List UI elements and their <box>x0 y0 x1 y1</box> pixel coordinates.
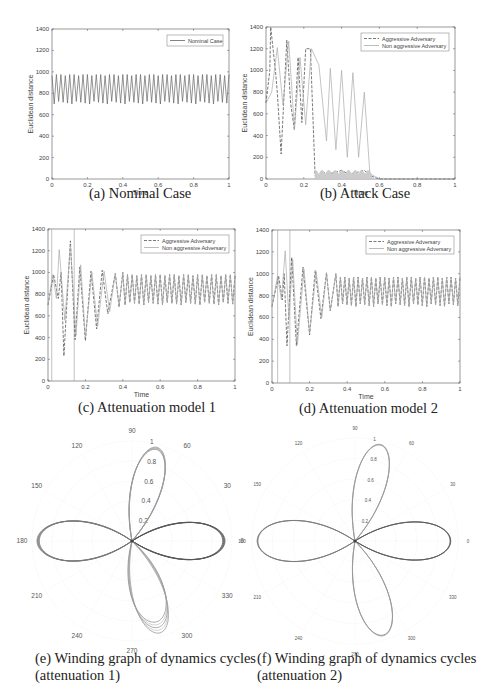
x-tick-label: 0.2 <box>305 386 314 392</box>
legend-entry: Non aggressive Adversary <box>162 245 226 251</box>
series-non-aggressive-adversary <box>266 41 455 179</box>
y-tick-label: 800 <box>253 89 264 95</box>
y-tick-label: 800 <box>35 291 46 297</box>
angle-tick-label: 210 <box>253 595 261 600</box>
y-tick-label: 800 <box>39 90 50 96</box>
legend-entry: Nominal Case <box>188 38 223 44</box>
y-tick-label: 1000 <box>36 69 50 75</box>
y-axis-label: Euclidean distance <box>23 276 30 335</box>
angle-tick-label: 240 <box>295 636 303 641</box>
y-tick-label: 1400 <box>250 24 264 30</box>
angle-tick-label: 30 <box>450 482 456 487</box>
x-tick-label: 0.6 <box>381 386 390 392</box>
x-tick-label: 0.4 <box>119 384 128 390</box>
x-tick-label: 0 <box>270 386 274 392</box>
series-aggressive-adversary <box>272 257 460 346</box>
y-tick-label: 0 <box>42 378 46 384</box>
legend: Aggressive AdversaryNon aggressive Adver… <box>141 235 229 253</box>
angle-tick-label: 300 <box>408 636 416 641</box>
legend: Nominal Case <box>167 35 223 46</box>
angle-tick-label: 180 <box>17 537 28 544</box>
angle-tick-label: 330 <box>222 592 233 599</box>
y-tick-label: 1000 <box>32 269 46 275</box>
y-tick-label: 1400 <box>32 226 46 232</box>
chart-a: 020040060080010001200140000.20.40.60.81T… <box>27 26 231 196</box>
x-tick-label: 1 <box>453 182 457 188</box>
legend-entry: Aggressive Adversary <box>382 36 435 42</box>
y-tick-label: 800 <box>259 293 270 299</box>
radial-tick-label: 1 <box>150 438 154 445</box>
y-tick-label: 400 <box>253 133 264 139</box>
y-tick-label: 1000 <box>256 271 270 277</box>
caption-d: (d) Attenuation model 2 <box>299 400 438 417</box>
y-tick-label: 400 <box>35 335 46 341</box>
angle-tick-label: 60 <box>409 441 415 446</box>
radial-tick-label: 0.4 <box>365 498 372 503</box>
x-tick-label: 1 <box>458 386 462 392</box>
y-axis-label: Euclidean distance <box>247 277 254 336</box>
x-tick-label: 0.2 <box>81 384 90 390</box>
x-axis-label: Time <box>358 393 373 400</box>
winding-trace <box>129 541 168 630</box>
angle-tick-label: 0 <box>467 539 470 544</box>
chart-b: 020040060080010001200140000.20.40.60.81T… <box>241 24 457 196</box>
angle-tick-label: 120 <box>295 441 303 446</box>
polar-origin <box>130 539 133 542</box>
radial-tick-label: 0.4 <box>142 497 151 504</box>
caption-f-line1: (f) Winding graph of dynamics cycles <box>257 650 476 667</box>
winding-trace <box>132 522 224 559</box>
radial-tick-label: 0.8 <box>147 458 156 465</box>
y-tick-label: 400 <box>259 336 270 342</box>
angle-tick-label: 300 <box>182 632 193 639</box>
polar-origin <box>353 539 356 542</box>
caption-c: (c) Attenuation model 1 <box>78 399 216 416</box>
noise-band <box>315 170 372 179</box>
legend-entry: Aggressive Adversary <box>162 238 215 244</box>
figure-canvas: 020040060080010001200140000.20.40.60.81T… <box>0 0 480 699</box>
x-tick-label: 0 <box>264 182 268 188</box>
legend: Aggressive AdversaryNon aggressive Adver… <box>366 236 454 254</box>
y-tick-label: 600 <box>259 314 270 320</box>
x-tick-label: 1 <box>227 182 231 188</box>
chart-f: 03060901201501802102402703003300.20.40.6… <box>238 426 470 657</box>
chart-c: 020040060080010001200140000.20.40.60.81T… <box>23 226 237 398</box>
y-tick-label: 600 <box>39 112 50 118</box>
y-tick-label: 200 <box>35 356 46 362</box>
y-tick-label: 200 <box>39 155 50 161</box>
angle-tick-label: 180 <box>238 539 246 544</box>
angle-tick-label: 90 <box>352 426 358 431</box>
legend: Aggressive AdversaryNon aggressive Adver… <box>361 33 449 51</box>
radial-tick-label: 0.2 <box>362 519 369 524</box>
y-tick-label: 600 <box>253 111 264 117</box>
x-tick-label: 0 <box>50 182 54 188</box>
y-tick-label: 1200 <box>36 47 50 53</box>
angle-tick-label: 330 <box>449 595 457 600</box>
x-tick-label: 0.6 <box>156 384 165 390</box>
angle-tick-label: 210 <box>31 592 42 599</box>
x-tick-label: 0.8 <box>413 182 422 188</box>
radial-tick-label: 0.8 <box>370 457 377 462</box>
y-tick-label: 1400 <box>36 26 50 32</box>
angle-tick-label: 150 <box>253 482 261 487</box>
legend-entry: Non aggressive Adversary <box>387 246 451 252</box>
y-tick-label: 400 <box>39 133 50 139</box>
legend-entry: Aggressive Adversary <box>387 239 440 245</box>
angle-tick-label: 240 <box>72 632 83 639</box>
x-tick-label: 0.4 <box>343 386 352 392</box>
chart-d: 020040060080010001200140000.20.40.60.81T… <box>247 227 462 400</box>
angle-tick-label: 120 <box>72 442 83 449</box>
x-tick-label: 0.8 <box>418 386 427 392</box>
caption-f-line2: (attenuation 2) <box>257 667 342 684</box>
y-tick-label: 0 <box>46 176 50 182</box>
y-tick-label: 1200 <box>250 46 264 52</box>
angle-tick-label: 90 <box>128 427 136 434</box>
x-tick-label: 0.2 <box>300 182 309 188</box>
y-tick-label: 200 <box>259 358 270 364</box>
series-aggressive-adversary <box>48 241 235 356</box>
y-tick-label: 200 <box>253 154 264 160</box>
y-tick-label: 1000 <box>250 67 264 73</box>
y-tick-label: 0 <box>260 176 264 182</box>
legend-entry: Non aggressive Adversary <box>382 43 446 49</box>
chart-e: 03060901201501802102402703003300.20.40.6… <box>17 427 245 654</box>
angle-tick-label: 150 <box>31 482 42 489</box>
